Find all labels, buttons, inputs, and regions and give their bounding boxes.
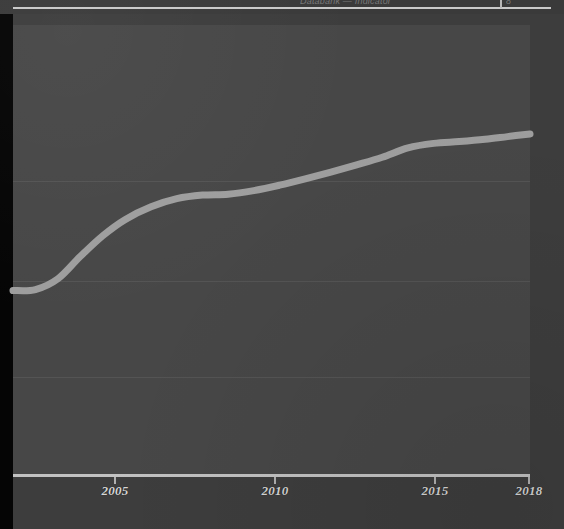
x-tick-label-2005: 2005: [101, 483, 128, 499]
plot-area: [13, 25, 530, 475]
x-tick-label-2018: 2018: [515, 483, 542, 499]
x-tick-label-2010: 2010: [261, 483, 288, 499]
x-axis-line: [13, 474, 530, 477]
gridline-y-80: [13, 181, 530, 182]
header-clipped-title: Databank — Indicator: [300, 0, 445, 5]
header-divider-rule: [13, 7, 551, 9]
gridline-y-60: [13, 281, 530, 282]
chart-screenshot: Databank — Indicator 8 2005 2010 2015 20…: [0, 0, 564, 529]
x-tick-label-2015: 2015: [421, 483, 448, 499]
vertical-divider-icon: [500, 0, 502, 8]
left-page-gutter: [0, 0, 13, 529]
header-clipped-value: 8: [506, 0, 532, 5]
header-strip: Databank — Indicator 8: [0, 0, 564, 14]
gridline-y-40: [13, 377, 530, 378]
